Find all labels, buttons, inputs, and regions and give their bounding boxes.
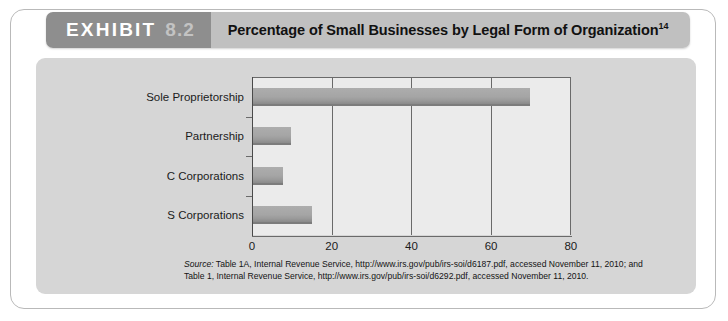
exhibit-number: 8.2 <box>165 19 194 41</box>
x-tick-label-60: 60 <box>485 240 498 252</box>
exhibit-label: EXHIBIT <box>66 19 156 41</box>
x-tick-label-0: 0 <box>249 240 255 252</box>
x-tick-label-20: 20 <box>325 240 338 252</box>
bar-c-corporations <box>253 167 283 185</box>
category-label-c-corporations: C Corporations <box>167 170 244 182</box>
x-tick-label-40: 40 <box>405 240 418 252</box>
category-label-sole-proprietorship: Sole Proprietorship <box>146 91 244 103</box>
bar-s-corporations <box>253 206 312 224</box>
category-label-partnership: Partnership <box>185 130 244 142</box>
chart-panel: Sole Proprietorship Partnership C Corpor… <box>36 58 696 294</box>
exhibit-title: Percentage of Small Businesses by Legal … <box>228 22 669 38</box>
x-tick-label-80: 80 <box>564 240 577 252</box>
x-axis-line <box>252 236 572 237</box>
category-label-s-corporations: S Corporations <box>167 209 244 221</box>
exhibit-title-text: Percentage of Small Businesses by Legal … <box>228 22 659 38</box>
bar-row-partnership: Partnership <box>36 117 696 157</box>
bar-partnership <box>253 127 291 145</box>
bar-sole-proprietorship <box>253 88 530 106</box>
exhibit-title-footnote-marker: 14 <box>659 21 669 31</box>
source-line-2: Table 1, Internal Revenue Service, http:… <box>184 271 588 281</box>
exhibit-header-banner: EXHIBIT 8.2 Percentage of Small Business… <box>46 12 690 48</box>
exhibit-title-container: Percentage of Small Businesses by Legal … <box>211 12 690 48</box>
source-line-1: Table 1A, Internal Revenue Service, http… <box>214 259 643 269</box>
bar-row-s-corporations: S Corporations <box>36 196 696 236</box>
exhibit-tag: EXHIBIT 8.2 <box>46 12 211 48</box>
source-prefix: Source: <box>184 259 214 269</box>
bar-row-sole-proprietorship: Sole Proprietorship <box>36 77 696 117</box>
bar-row-c-corporations: C Corporations <box>36 156 696 196</box>
source-note: Source: Table 1A, Internal Revenue Servi… <box>184 258 654 282</box>
